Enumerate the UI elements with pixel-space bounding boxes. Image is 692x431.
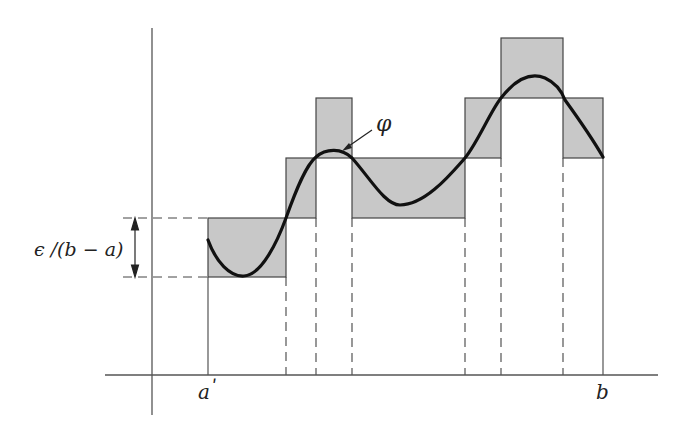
- height-arrow: [132, 218, 139, 277]
- arrow-head-down-icon: [132, 265, 139, 277]
- epsilon-height-label: ϵ /(b − a): [34, 238, 123, 260]
- arrow-head-up-icon: [132, 218, 139, 230]
- b-label: b: [596, 380, 609, 404]
- a-prime-mark: ʹ: [212, 376, 217, 397]
- phi-label: φ: [376, 111, 392, 136]
- approximation-rectangles: [208, 38, 603, 277]
- step-function-diagram: φ a ʹ b ϵ /(b − a): [0, 0, 692, 431]
- approximation-rect-4: [352, 158, 465, 218]
- a-label: a: [198, 380, 210, 404]
